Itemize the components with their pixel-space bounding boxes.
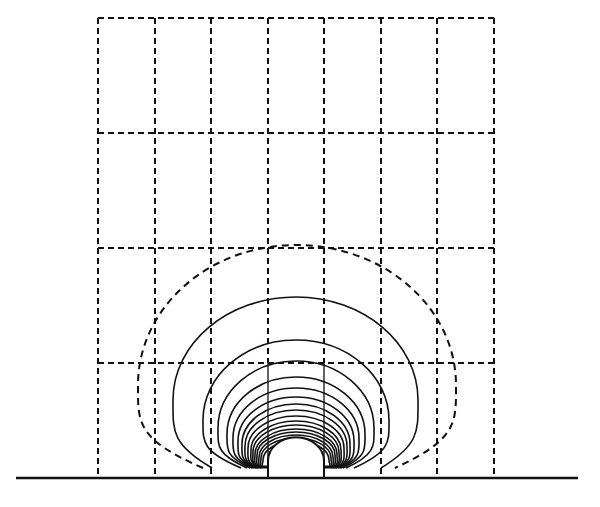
field-contour-figure: Equipotential / field contour lines arou… bbox=[0, 0, 600, 507]
boss-shape bbox=[268, 437, 324, 478]
figure-canvas bbox=[0, 0, 600, 507]
contour-lines bbox=[138, 245, 456, 468]
mesh-grid bbox=[98, 18, 494, 478]
